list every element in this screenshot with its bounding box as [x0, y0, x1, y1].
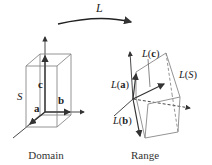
linear-transformation-diagram: L c b a S Domain: [0, 0, 212, 165]
domain-caption: Domain: [28, 149, 64, 161]
vector-b-label: b: [58, 94, 64, 106]
range-caption: Range: [131, 149, 159, 161]
set-s-label: S: [17, 90, 23, 102]
mapping-arrow: L: [58, 1, 131, 24]
vector-c-label: c: [38, 78, 43, 90]
domain-figure: c b a S: [13, 37, 84, 138]
vector-lc-label: L(c): [141, 48, 160, 60]
transform-label: L: [95, 1, 103, 15]
vector-a-label: a: [34, 102, 40, 114]
range-figure: L(c) L(a) L(b) L(S): [110, 48, 198, 138]
vector-lb-label: L(b): [112, 115, 132, 127]
set-ls-label: L(S): [178, 69, 198, 81]
vector-la-label: L(a): [110, 79, 130, 91]
